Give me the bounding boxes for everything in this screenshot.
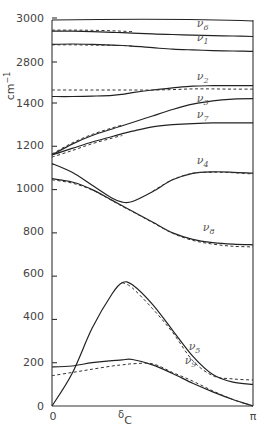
y-tick-label-3000: 3000 — [16, 12, 44, 25]
axes — [52, 19, 253, 406]
y-tick-label-600: 600 — [23, 267, 44, 280]
curve-label-nu2: ν2 — [197, 70, 209, 85]
y-axis-unit: cm — [4, 84, 17, 101]
curve-nu2-solid — [52, 86, 253, 97]
curve-nu7-dashed — [52, 136, 122, 158]
y-tick-label-800: 800 — [23, 225, 44, 238]
vibrational-frequency-chart: ν6ν1ν2ν3ν7ν4ν8ν5ν9 3000 2800 1400 1200 1… — [0, 0, 270, 433]
curve-nu5-solid — [52, 282, 253, 406]
curve-label-nu7: ν7 — [197, 108, 210, 123]
curve-nu4-dashed — [153, 172, 254, 191]
y-axis-label: cm−1 — [3, 72, 17, 101]
y-tick-label-0: 0 — [37, 400, 44, 413]
curve-label-nu5: ν5 — [189, 340, 201, 355]
x-tick-label-pi: π — [250, 410, 257, 423]
curve-nu8-dashed — [52, 180, 253, 247]
x-axis-label-sub: C — [124, 414, 132, 427]
y-tick-label-1000: 1000 — [16, 182, 44, 195]
curve-nu9-solid — [52, 359, 253, 406]
curve-nu4-solid — [52, 164, 253, 203]
curve-label-nu3: ν3 — [197, 92, 209, 107]
curve-label-nu1: ν1 — [197, 31, 209, 46]
y-tick-label-1400: 1400 — [16, 97, 44, 110]
curve-labels: ν6ν1ν2ν3ν7ν4ν8ν5ν9 — [185, 17, 215, 369]
y-tick-label-2800: 2800 — [16, 56, 44, 69]
y-tick-label-200: 200 — [23, 356, 44, 369]
curve-nu8-solid — [52, 179, 253, 245]
curve-label-nu9: ν9 — [185, 354, 197, 369]
curve-nu9-dashed — [52, 363, 253, 406]
curve-nu6-solid — [52, 31, 253, 36]
x-tick-label-0: 0 — [50, 410, 57, 423]
y-tick-label-400: 400 — [23, 310, 44, 323]
curve-label-nu4: ν4 — [197, 154, 209, 169]
top-frame-line — [52, 19, 253, 21]
svg-text:cm−1: cm−1 — [3, 72, 17, 101]
frequency-curves — [52, 30, 253, 406]
x-axis-label: δC — [118, 409, 132, 427]
y-axis-ticks — [52, 18, 57, 363]
y-tick-label-1200: 1200 — [16, 139, 44, 152]
y-axis-unit-exponent: −1 — [3, 72, 12, 84]
curve-label-nu8: ν8 — [203, 221, 215, 236]
